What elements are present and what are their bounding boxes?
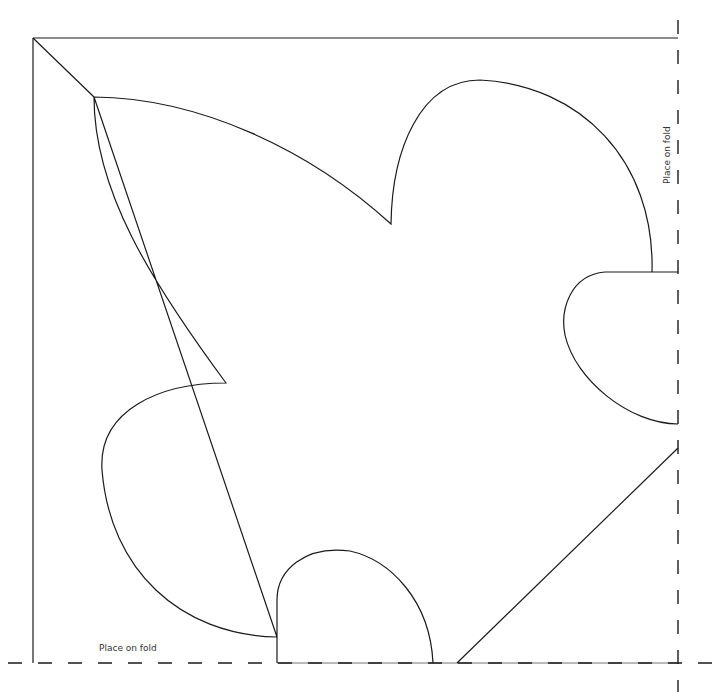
bottom-right-diagonal-line: [457, 448, 678, 663]
place-on-fold-label-right: Place on fold: [662, 126, 672, 184]
leaf-pattern-template: [0, 0, 718, 692]
place-on-fold-label-bottom: Place on fold: [99, 643, 157, 653]
leaf-outline: [94, 80, 678, 663]
corner-diagonal-line: [33, 38, 94, 97]
